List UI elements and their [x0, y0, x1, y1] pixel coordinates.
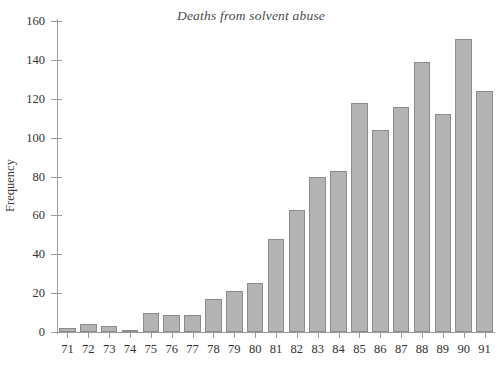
- bar: [122, 330, 139, 332]
- bar: [414, 62, 431, 332]
- x-axis-tick-label: 88: [416, 342, 429, 357]
- x-axis-tick: [213, 332, 214, 338]
- bar: [476, 91, 493, 332]
- x-axis-tick-label: 75: [145, 342, 158, 357]
- x-axis-tick: [109, 332, 110, 338]
- bar: [393, 107, 410, 332]
- x-axis-tick-label: 80: [249, 342, 262, 357]
- bar: [435, 114, 452, 332]
- x-axis-tick-label: 86: [374, 342, 387, 357]
- y-axis-tick-label: 0: [0, 325, 45, 340]
- y-axis-tick-label: 40: [0, 247, 45, 262]
- y-axis-tick-label: 140: [0, 52, 45, 67]
- x-axis-tick: [464, 332, 465, 338]
- plot-area: [57, 21, 495, 332]
- x-axis-tick-label: 83: [311, 342, 324, 357]
- x-axis-tick: [401, 332, 402, 338]
- bar: [226, 291, 243, 332]
- bar: [289, 210, 306, 332]
- x-axis-tick: [276, 332, 277, 338]
- x-axis-tick: [380, 332, 381, 338]
- x-axis-tick: [422, 332, 423, 338]
- bar: [372, 130, 389, 332]
- bar: [101, 326, 118, 332]
- bar: [455, 39, 472, 333]
- x-axis-tick: [234, 332, 235, 338]
- x-axis-tick-label: 74: [124, 342, 137, 357]
- bar: [59, 328, 76, 332]
- x-axis-tick-label: 79: [228, 342, 241, 357]
- bar: [351, 103, 368, 332]
- x-axis-tick-label: 72: [82, 342, 95, 357]
- bar: [268, 239, 285, 332]
- x-axis-tick: [130, 332, 131, 338]
- bar: [330, 171, 347, 332]
- bar: [247, 283, 264, 332]
- x-axis-tick: [359, 332, 360, 338]
- x-axis-tick: [443, 332, 444, 338]
- x-axis-tick-label: 71: [61, 342, 74, 357]
- x-axis-tick-label: 73: [103, 342, 116, 357]
- x-axis-tick-label: 77: [186, 342, 199, 357]
- x-axis-tick-label: 89: [437, 342, 450, 357]
- x-axis-tick: [151, 332, 152, 338]
- x-axis-tick: [193, 332, 194, 338]
- bar-chart: Deaths from solvent abuse Frequency 0204…: [0, 0, 502, 370]
- bar: [163, 315, 180, 332]
- bar: [309, 177, 326, 333]
- y-axis-tick: [51, 332, 62, 333]
- bar: [184, 315, 201, 332]
- x-axis-tick-label: 85: [353, 342, 366, 357]
- bar: [80, 324, 97, 332]
- x-axis-tick: [255, 332, 256, 338]
- y-axis-tick-label: 60: [0, 208, 45, 223]
- y-axis-tick-label: 20: [0, 286, 45, 301]
- x-axis-tick-label: 90: [457, 342, 470, 357]
- x-axis-tick-label: 82: [291, 342, 304, 357]
- y-axis-label-text: Frequency: [3, 159, 18, 212]
- y-axis-tick-label: 100: [0, 130, 45, 145]
- bar: [143, 313, 160, 332]
- x-axis-tick-label: 76: [165, 342, 178, 357]
- x-axis-tick: [339, 332, 340, 338]
- x-axis-tick: [297, 332, 298, 338]
- x-axis-tick-label: 81: [270, 342, 283, 357]
- bar: [205, 299, 222, 332]
- x-axis-tick-label: 78: [207, 342, 220, 357]
- x-axis-tick-label: 84: [332, 342, 345, 357]
- x-axis-tick: [485, 332, 486, 338]
- x-axis-tick-label: 91: [478, 342, 491, 357]
- y-axis-tick-label: 120: [0, 91, 45, 106]
- x-axis-tick: [67, 332, 68, 338]
- x-axis-tick: [172, 332, 173, 338]
- y-axis-tick-label: 160: [0, 14, 45, 29]
- x-axis-tick: [318, 332, 319, 338]
- x-axis-tick-label: 87: [395, 342, 408, 357]
- y-axis-tick-label: 80: [0, 169, 45, 184]
- x-axis-tick: [88, 332, 89, 338]
